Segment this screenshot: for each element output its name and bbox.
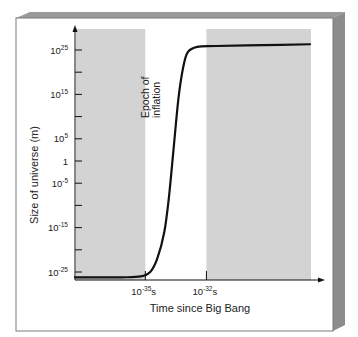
shaded-region-1 bbox=[76, 29, 145, 280]
frame-top-bevel bbox=[16, 12, 345, 18]
shaded-region-2 bbox=[206, 29, 311, 280]
annotation-line-2: inflation bbox=[150, 82, 162, 118]
x-axis-title: Time since Big Bang bbox=[150, 302, 250, 314]
inflation-annotation: Epoch of inflation bbox=[139, 76, 162, 118]
y-axis-title: Size of universe (m) bbox=[28, 126, 40, 224]
y-tick-label: 1 bbox=[63, 156, 68, 167]
chart: 10251015105110-510-1510-25 10-35s10-32s … bbox=[0, 0, 358, 337]
frame-right-bevel bbox=[333, 12, 345, 331]
